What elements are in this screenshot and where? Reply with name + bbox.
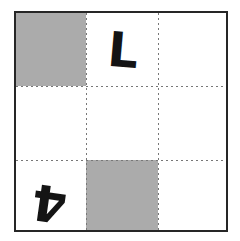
grid-line-horizontal-2 (16, 160, 226, 161)
cell-r3c2-shaded (86, 160, 158, 230)
puzzle-figure: L 4 (0, 0, 240, 241)
glyph-cell-r1c2-letter-l: L (106, 25, 141, 75)
glyph-cell-r3c1-digit-four-rotated: 4 (29, 176, 70, 230)
cell-r1c1-shaded (16, 13, 86, 86)
grid-line-vertical-2 (158, 13, 159, 230)
grid-line-horizontal-1 (16, 86, 226, 87)
matrix-grid: L 4 (14, 11, 228, 232)
matrix-grid-inner: L 4 (16, 13, 226, 230)
grid-line-vertical-1 (86, 13, 87, 230)
